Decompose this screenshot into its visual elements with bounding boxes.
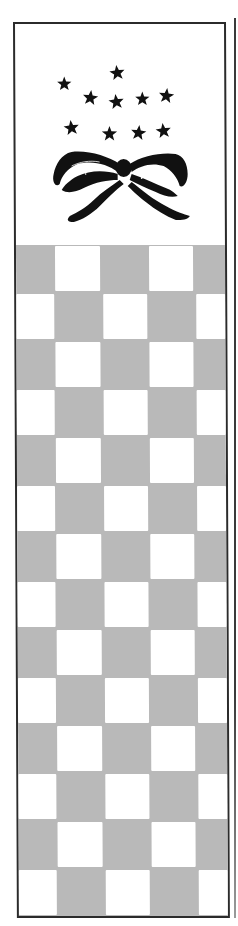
checker-white-square <box>149 246 193 291</box>
star-icon <box>131 125 146 140</box>
checker-row <box>17 485 226 533</box>
checker-white-square <box>197 582 226 627</box>
checker-row <box>17 389 226 437</box>
checker-white-square <box>17 486 55 531</box>
checker-row <box>17 437 226 485</box>
checker-white-square <box>56 534 101 579</box>
star-icon <box>102 126 117 140</box>
checker-white-square <box>104 582 148 627</box>
checker-white-square <box>104 486 148 531</box>
checker-row <box>18 725 227 773</box>
checker-white-square <box>57 726 102 771</box>
checker-white-square <box>197 486 226 531</box>
checker-white-square <box>198 774 227 819</box>
checker-white-square <box>150 438 194 483</box>
checker-white-square <box>106 870 150 915</box>
checker-white-square <box>105 678 149 723</box>
bookmark-frame <box>13 22 230 918</box>
checker-row <box>16 341 225 389</box>
checker-white-square <box>17 390 55 435</box>
checker-white-square <box>57 822 102 867</box>
star-icon <box>159 88 174 103</box>
checker-row <box>16 293 225 341</box>
checker-row <box>18 773 227 821</box>
checker-white-square <box>150 534 194 579</box>
checker-white-square <box>196 294 225 339</box>
checker-white-square <box>17 582 55 627</box>
checker-white-square <box>56 438 101 483</box>
checker-white-square <box>105 774 149 819</box>
checker-row <box>17 581 226 629</box>
checker-white-square <box>199 870 228 915</box>
checker-row <box>17 533 226 581</box>
checker-white-square <box>55 246 100 291</box>
checker-white-square <box>198 678 227 723</box>
star-icon <box>83 90 98 105</box>
ribbon-bow-icon <box>53 152 190 222</box>
checker-white-square <box>57 630 102 675</box>
checker-white-square <box>103 294 147 339</box>
checker-white-square <box>19 870 57 915</box>
checker-row <box>19 869 228 917</box>
star-icon <box>108 94 123 109</box>
checker-white-square <box>104 390 148 435</box>
checker-white-square <box>151 822 195 867</box>
checker-white-square <box>55 342 100 387</box>
checker-row <box>18 677 227 725</box>
checker-white-square <box>149 342 193 387</box>
checker-row <box>16 245 225 293</box>
star-icon <box>109 65 124 80</box>
star-icon <box>135 92 149 106</box>
checker-white-square <box>18 774 56 819</box>
adjacent-page-edge-line <box>234 18 236 918</box>
checker-white-square <box>151 630 195 675</box>
checker-white-square <box>197 390 226 435</box>
checker-white-square <box>18 678 56 723</box>
checker-white-square <box>151 726 195 771</box>
checker-row <box>18 821 227 869</box>
star-icon <box>57 77 71 91</box>
checkerboard-pattern <box>16 245 228 917</box>
checker-row <box>18 629 227 677</box>
star-icon <box>156 123 171 138</box>
stars-group <box>57 65 174 140</box>
star-icon <box>64 120 79 135</box>
checker-white-square <box>16 294 54 339</box>
stars-and-bow-illustration <box>15 24 225 244</box>
header-illustration <box>15 24 225 244</box>
